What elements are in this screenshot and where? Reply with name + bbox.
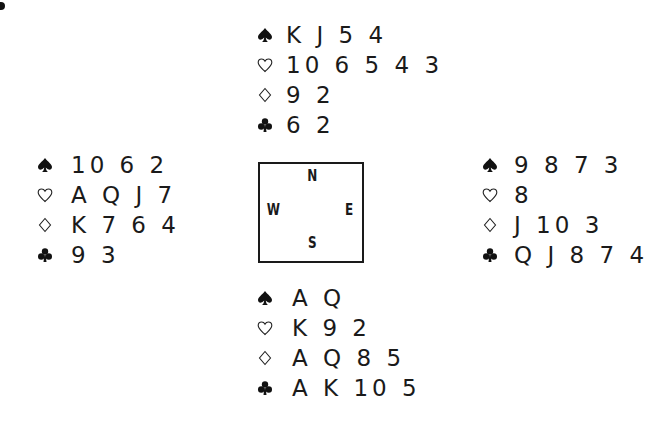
diamond-outline-icon: [257, 87, 273, 103]
south-diamonds-cards: A Q 8 5: [292, 343, 405, 373]
west-hearts-cards: A Q J 7: [71, 180, 176, 210]
east-clubs-cards: Q J 8 7 4: [514, 240, 648, 270]
club-icon: [482, 247, 498, 263]
spade-icon: [257, 27, 273, 43]
heart-outline-icon: [37, 187, 53, 203]
east-hearts-cards: 8: [514, 180, 533, 210]
club-icon: [257, 380, 273, 396]
south-spades-cards: A Q: [292, 283, 345, 313]
north-spades-cards: K J 5 4: [286, 20, 387, 50]
south-hearts-cards: K 9 2: [292, 313, 371, 343]
club-icon: [257, 117, 273, 133]
compass-box: N W E S: [258, 162, 364, 263]
spade-icon: [257, 290, 273, 306]
compass-south-label: S: [308, 234, 317, 252]
club-icon: [37, 247, 53, 263]
north-clubs-cards: 6 2: [286, 110, 335, 140]
west-diamonds-cards: K 7 6 4: [71, 210, 180, 240]
compass-north-label: N: [307, 167, 317, 185]
east-spades-cards: 9 8 7 3: [514, 150, 622, 180]
north-hearts-cards: 10 6 5 4 3: [286, 50, 443, 80]
heart-outline-icon: [482, 187, 498, 203]
west-clubs-cards: 9 3: [71, 240, 120, 270]
diamond-outline-icon: [482, 217, 498, 233]
west-spades-cards: 10 6 2: [71, 150, 168, 180]
east-diamonds-cards: J 10 3: [514, 210, 603, 240]
spade-icon: [37, 157, 53, 173]
diamond-outline-icon: [257, 350, 273, 366]
south-clubs-cards: A K 10 5: [292, 373, 421, 403]
spade-icon: [482, 157, 498, 173]
north-diamonds-cards: 9 2: [286, 80, 335, 110]
corner-dot: [0, 2, 5, 10]
heart-outline-icon: [257, 320, 273, 336]
compass-east-label: E: [345, 201, 353, 219]
compass-west-label: W: [267, 201, 280, 219]
diamond-outline-icon: [37, 217, 53, 233]
heart-outline-icon: [257, 57, 273, 73]
